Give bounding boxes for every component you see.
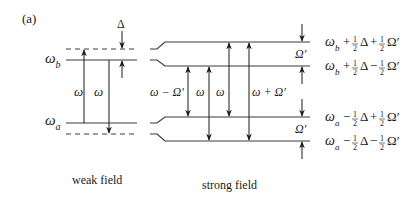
- transition-label-omega-2: ω: [94, 84, 103, 99]
- svg-text:1: 1: [380, 59, 384, 68]
- svg-text:+: +: [370, 109, 377, 124]
- dressed-level-a-minus: [150, 134, 310, 141]
- svg-text:Δ: Δ: [360, 58, 368, 73]
- svg-text:−: −: [370, 58, 377, 73]
- svg-text:Δ: Δ: [360, 109, 368, 124]
- svg-text:2: 2: [380, 68, 384, 77]
- svg-text:ωb: ωb: [325, 34, 340, 53]
- dressed-level-b-plus: [150, 42, 310, 49]
- transition-label-omega-plus-omega-prime: ω + Ω′: [252, 85, 286, 99]
- svg-text:ωa: ωa: [325, 109, 340, 128]
- svg-text:2: 2: [353, 143, 357, 152]
- svg-text:Ω′: Ω′: [387, 109, 400, 124]
- svg-text:ωa: ωa: [325, 133, 340, 152]
- svg-text:ωb: ωb: [325, 58, 340, 77]
- transition-label-omega-3: ω: [196, 85, 204, 99]
- svg-text:1: 1: [380, 35, 384, 44]
- svg-text:1: 1: [353, 134, 357, 143]
- svg-text:−: −: [343, 133, 350, 148]
- svg-text:Δ: Δ: [360, 133, 368, 148]
- svg-text:2: 2: [380, 119, 384, 128]
- svg-text:1: 1: [353, 35, 357, 44]
- svg-text:2: 2: [380, 44, 384, 53]
- level-a-label: ωa: [45, 112, 61, 132]
- level-label-a-minus: ωa − 12 Δ − 12 Ω′: [325, 133, 400, 152]
- level-label-a-plus: ωa − 12 Δ + 12 Ω′: [325, 109, 400, 128]
- svg-text:2: 2: [380, 143, 384, 152]
- strong-field-caption: strong field: [202, 178, 257, 192]
- svg-text:−: −: [370, 133, 377, 148]
- svg-text:+: +: [343, 58, 350, 73]
- energy-level-diagram: (a) ω ω Δ ωb ωa weak field ω − Ω′: [0, 0, 419, 200]
- svg-text:Ω′: Ω′: [387, 133, 400, 148]
- splitting-label-lower: Ω′: [295, 122, 307, 136]
- transition-label-omega-1: ω: [74, 84, 83, 99]
- dressed-level-a-plus: [150, 117, 310, 123]
- svg-text:1: 1: [380, 110, 384, 119]
- splitting-label-upper: Ω′: [295, 47, 307, 61]
- svg-text:1: 1: [353, 59, 357, 68]
- panel-label: (a): [22, 11, 36, 26]
- svg-text:Ω′: Ω′: [387, 58, 400, 73]
- level-label-b-minus: ωb + 12 Δ − 12 Ω′: [325, 58, 400, 77]
- dressed-level-b-minus: [150, 60, 310, 66]
- svg-text:2: 2: [353, 119, 357, 128]
- svg-text:+: +: [343, 34, 350, 49]
- level-b-label: ωb: [45, 50, 61, 70]
- svg-text:2: 2: [353, 44, 357, 53]
- level-label-b-plus: ωb + 12 Δ + 12 Ω′: [325, 34, 400, 53]
- svg-text:−: −: [343, 109, 350, 124]
- svg-text:2: 2: [353, 68, 357, 77]
- weak-field-caption: weak field: [72, 173, 122, 187]
- svg-text:Ω′: Ω′: [387, 34, 400, 49]
- detuning-label: Δ: [117, 17, 125, 31]
- strong-field-diagram: ω − Ω′ ω ω ω + Ω′ Ω′ Ω′ ωb + 12 Δ + 12 Ω…: [150, 24, 400, 192]
- weak-field-diagram: ω ω Δ ωb ωa weak field: [45, 17, 137, 187]
- svg-text:+: +: [370, 34, 377, 49]
- transition-label-omega-minus-omega-prime: ω − Ω′: [150, 85, 184, 99]
- svg-text:1: 1: [380, 134, 384, 143]
- transition-label-omega-4: ω: [216, 85, 224, 99]
- svg-text:1: 1: [353, 110, 357, 119]
- svg-text:Δ: Δ: [360, 34, 368, 49]
